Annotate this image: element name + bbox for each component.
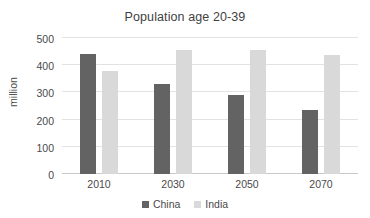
legend-swatch-icon: [142, 201, 149, 208]
plot-area: [62, 38, 358, 174]
y-axis-tick-label: 300: [8, 87, 54, 99]
y-axis-tick-label: 400: [8, 60, 54, 72]
bar-india-2070[interactable]: [324, 55, 340, 174]
bar-group: [224, 38, 270, 174]
chart-title: Population age 20-39: [0, 10, 370, 24]
legend-label: India: [205, 198, 228, 210]
y-axis-tick-labels: 0100200300400500: [8, 38, 54, 174]
bar-china-2070[interactable]: [302, 110, 318, 174]
legend-swatch-icon: [194, 201, 201, 208]
bar-group: [150, 38, 196, 174]
y-axis-tick-label: 500: [8, 33, 54, 45]
bar-china-2050[interactable]: [228, 95, 244, 174]
bar-chart: Population age 20-39 million 01002003004…: [0, 0, 370, 218]
legend-item-india[interactable]: India: [194, 198, 228, 210]
bar-india-2030[interactable]: [176, 50, 192, 174]
bar-india-2050[interactable]: [250, 50, 266, 174]
y-axis-tick-label: 100: [8, 142, 54, 154]
x-axis-tick-label: 2070: [284, 178, 358, 190]
y-axis-tick-label: 0: [8, 169, 54, 181]
x-axis-tick-label: 2030: [136, 178, 210, 190]
bar-india-2010[interactable]: [102, 71, 118, 174]
legend-item-china[interactable]: China: [142, 198, 180, 210]
bar-group: [76, 38, 122, 174]
chart-legend: ChinaIndia: [0, 198, 370, 210]
bar-china-2010[interactable]: [80, 54, 96, 174]
bar-china-2030[interactable]: [154, 84, 170, 174]
bar-group: [298, 38, 344, 174]
y-axis-tick-label: 200: [8, 115, 54, 127]
x-axis-tick-label: 2010: [62, 178, 136, 190]
legend-label: China: [153, 198, 180, 210]
x-axis-tick-label: 2050: [210, 178, 284, 190]
